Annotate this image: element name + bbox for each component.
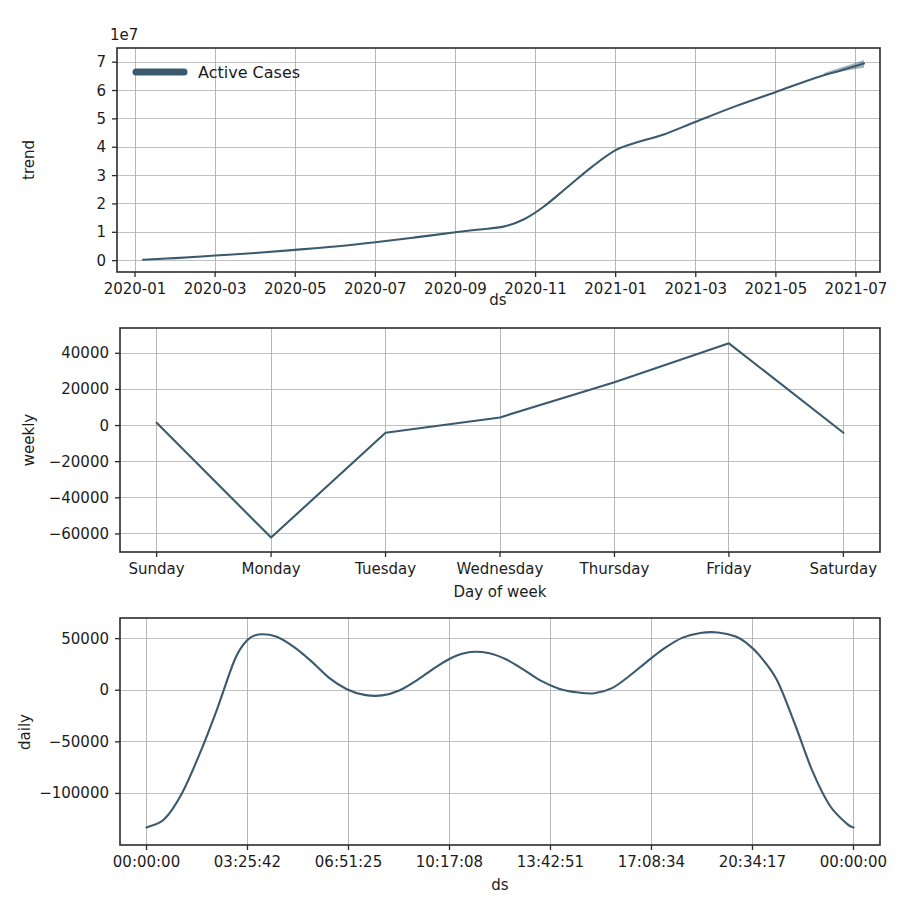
tick-label: 2021-01 bbox=[584, 280, 647, 298]
tick-label: 13:42:51 bbox=[517, 853, 584, 871]
tick-label: 0 bbox=[99, 417, 109, 435]
trend-series-line bbox=[143, 64, 864, 260]
tick-label: 00:00:00 bbox=[113, 853, 180, 871]
trend-tickmarks bbox=[112, 62, 856, 277]
weekly-x-tick-labels: SundayMondayTuesdayWednesdayThursdayFrid… bbox=[129, 560, 878, 578]
daily-y-tick-labels: 500000−50000−100000 bbox=[39, 630, 109, 803]
tick-label: −60000 bbox=[49, 525, 109, 543]
legend-label: Active Cases bbox=[198, 63, 300, 82]
daily-tickmarks bbox=[115, 639, 853, 850]
tick-label: 2020-11 bbox=[504, 280, 567, 298]
tick-label: 5 bbox=[96, 110, 106, 128]
tick-label: Monday bbox=[241, 560, 300, 578]
daily-x-tick-labels: 00:00:0003:25:4206:51:2510:17:0813:42:51… bbox=[113, 853, 887, 871]
tick-label: 7 bbox=[96, 53, 106, 71]
tick-label: Sunday bbox=[129, 560, 185, 578]
trend-legend: Active Cases bbox=[124, 55, 354, 89]
tick-label: 0 bbox=[99, 681, 109, 699]
tick-label: Thursday bbox=[579, 560, 650, 578]
weekly-gridlines bbox=[120, 328, 880, 552]
daily-panel: 00:00:0003:25:4206:51:2510:17:0813:42:51… bbox=[0, 596, 908, 916]
tick-label: 20000 bbox=[61, 380, 109, 398]
tick-label: 2020-03 bbox=[184, 280, 247, 298]
weekly-tickmarks bbox=[115, 353, 843, 557]
tick-label: 06:51:25 bbox=[315, 853, 382, 871]
daily-gridlines bbox=[120, 618, 880, 845]
weekly-y-tick-labels: 40000200000−20000−40000−60000 bbox=[49, 344, 109, 543]
tick-label: 0 bbox=[96, 252, 106, 270]
tick-label: 2020-09 bbox=[424, 280, 487, 298]
tick-label: Tuesday bbox=[354, 560, 416, 578]
tick-label: 4 bbox=[96, 138, 106, 156]
tick-label: 1 bbox=[96, 223, 106, 241]
tick-label: Friday bbox=[706, 560, 752, 578]
daily-chart-svg: 00:00:0003:25:4206:51:2510:17:0813:42:51… bbox=[0, 596, 908, 916]
trend-x-axis-title: ds bbox=[489, 291, 507, 309]
tick-label: 2 bbox=[96, 195, 106, 213]
tick-label: 10:17:08 bbox=[416, 853, 483, 871]
prophet-components-figure: 2020-012020-032020-052020-072020-092020-… bbox=[0, 0, 908, 916]
trend-y-offset-label: 1e7 bbox=[110, 26, 138, 44]
daily-x-axis-title: ds bbox=[491, 876, 509, 894]
tick-label: 2020-01 bbox=[104, 280, 167, 298]
tick-label: −40000 bbox=[49, 489, 109, 507]
tick-label: −100000 bbox=[39, 784, 109, 802]
tick-label: Saturday bbox=[810, 560, 878, 578]
tick-label: 2020-05 bbox=[264, 280, 327, 298]
daily-y-axis-title: daily bbox=[16, 714, 34, 750]
tick-label: 2021-03 bbox=[664, 280, 727, 298]
tick-label: 40000 bbox=[61, 344, 109, 362]
tick-label: 20:34:17 bbox=[719, 853, 786, 871]
daily-series-line bbox=[147, 632, 854, 827]
trend-panel: 2020-012020-032020-052020-072020-092020-… bbox=[0, 0, 908, 320]
tick-label: 03:25:42 bbox=[214, 853, 281, 871]
weekly-chart-svg: SundayMondayTuesdayWednesdayThursdayFrid… bbox=[0, 312, 908, 602]
tick-label: 50000 bbox=[61, 630, 109, 648]
trend-y-axis-title: trend bbox=[20, 140, 38, 180]
tick-label: 17:08:34 bbox=[618, 853, 685, 871]
tick-label: Wednesday bbox=[457, 560, 544, 578]
tick-label: 2020-07 bbox=[344, 280, 407, 298]
tick-label: 2021-05 bbox=[745, 280, 808, 298]
tick-label: −20000 bbox=[49, 453, 109, 471]
daily-axes-frame bbox=[120, 618, 880, 845]
tick-label: 3 bbox=[96, 167, 106, 185]
tick-label: 6 bbox=[96, 82, 106, 100]
trend-y-tick-labels: 01234567 bbox=[96, 53, 106, 269]
trend-chart-svg: 2020-012020-032020-052020-072020-092020-… bbox=[0, 0, 908, 320]
weekly-panel: SundayMondayTuesdayWednesdayThursdayFrid… bbox=[0, 312, 908, 602]
tick-label: 2021-07 bbox=[825, 280, 888, 298]
tick-label: −50000 bbox=[49, 733, 109, 751]
tick-label: 00:00:00 bbox=[820, 853, 887, 871]
weekly-y-axis-title: weekly bbox=[20, 414, 38, 467]
